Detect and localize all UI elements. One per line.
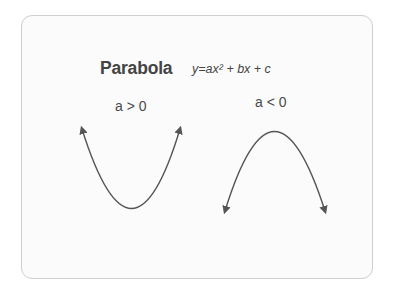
parabola-opens-up xyxy=(82,129,180,209)
parabola-curves xyxy=(0,0,394,294)
parabola-opens-down xyxy=(225,132,325,212)
